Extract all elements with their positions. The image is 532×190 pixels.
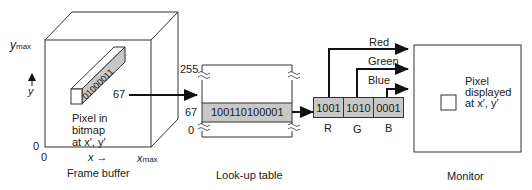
monitor-caption: Monitor <box>447 171 484 182</box>
pixel-label-line1: Pixel in <box>72 113 107 124</box>
green-wire-label: Green <box>368 56 399 67</box>
displayed-pixel <box>441 95 456 110</box>
red-label: R <box>324 123 332 134</box>
lut-top-index: 255 <box>180 64 198 75</box>
green-label: G <box>353 124 362 135</box>
green-cell: 1010 <box>343 97 374 118</box>
pixel-label-line2: bitmap <box>72 125 105 136</box>
frame-buffer-cube <box>45 12 178 147</box>
pixel-label-line3: at x′, y′ <box>72 137 105 148</box>
blue-label: B <box>385 123 392 134</box>
red-wire-label: Red <box>369 37 389 48</box>
lookup-table-box <box>202 65 292 137</box>
blue-cell: 0001 <box>373 97 404 118</box>
blue-wire-label: Blue <box>368 75 390 86</box>
x-max-label: xmax <box>137 153 158 164</box>
lut-bottom-index: 0 <box>188 125 194 136</box>
diagram-graphics: 01000011 <box>0 0 532 190</box>
lut-caption: Look-up table <box>216 170 283 181</box>
y-max-label: ymax <box>10 39 31 51</box>
lut-row-index: 67 <box>185 107 197 118</box>
red-cell: 1001 <box>313 97 344 118</box>
monitor-pixel-line3: at x′, y′ <box>465 98 498 109</box>
x-axis-label: x → <box>88 152 108 163</box>
lut-row-value: 100110100001 <box>211 107 284 118</box>
frame-buffer-caption: Frame buffer <box>67 168 130 179</box>
y-axis-label: y <box>28 86 34 97</box>
x-zero-label: 0 <box>41 152 47 163</box>
y-zero-label: 0 <box>33 141 39 152</box>
index-value-label: 67 <box>113 89 125 100</box>
